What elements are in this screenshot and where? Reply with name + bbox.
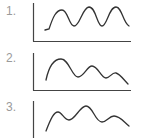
panel-1-chart: [33, 3, 131, 42]
panel-2-chart: [33, 53, 131, 91]
panel-3-wave: [46, 106, 129, 131]
wave-diagrams: [0, 0, 141, 138]
panel-3-chart: [34, 101, 130, 138]
panel-2-wave: [46, 59, 128, 84]
panel-1-wave: [45, 7, 129, 30]
